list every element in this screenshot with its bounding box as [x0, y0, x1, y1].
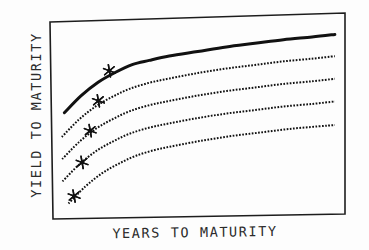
- y-axis-label: YIELD TO MATURITY: [28, 20, 44, 210]
- asterisk-marker: [68, 190, 80, 202]
- asterisk-marker: [104, 65, 116, 77]
- x-axis-label: YEARS TO MATURITY: [90, 223, 300, 242]
- yield-curve-chart: [0, 0, 369, 250]
- asterisk-marker: [76, 156, 88, 168]
- chart-screenshot: YIELD TO MATURITY YEARS TO MATURITY: [0, 0, 369, 250]
- series-line-curve-3: [62, 79, 335, 159]
- series-line-curve-5-bottom: [68, 125, 334, 203]
- series-layer: [62, 34, 335, 203]
- asterisk-marker: [93, 95, 105, 107]
- plot-frame: [50, 13, 345, 219]
